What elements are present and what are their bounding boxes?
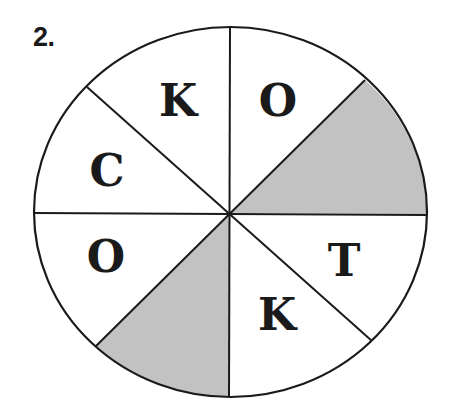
puzzle-number-label: 2. <box>33 22 55 52</box>
puzzle-figure: 2. K O C O T K <box>0 0 450 419</box>
sector-letter-top-right: O <box>259 75 297 126</box>
sector-letter-left-upper: C <box>89 145 124 196</box>
sector-letter-right-lower: T <box>328 235 361 286</box>
sector-letter-top-left: K <box>159 75 199 126</box>
sector-letter-left-lower: O <box>87 231 125 282</box>
divider-vertical <box>229 27 230 397</box>
letter-wheel: K O C O T K <box>0 0 450 419</box>
sector-letter-bottom-right: K <box>258 289 298 340</box>
